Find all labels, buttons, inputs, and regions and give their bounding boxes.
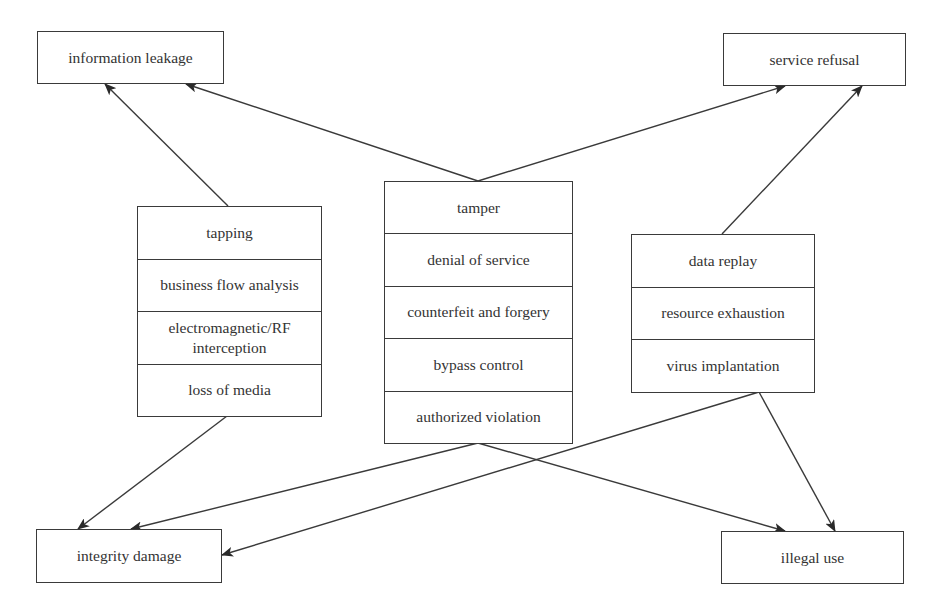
arrow-left-to-integrity-damage: [78, 416, 227, 529]
threat-item: resource exhaustion: [632, 287, 814, 340]
threat-group-center: tamper denial of service counterfeit and…: [384, 181, 573, 444]
outcome-label: service refusal: [770, 51, 860, 69]
arrow-center-to-service-refusal: [478, 86, 785, 181]
outcome-label: integrity damage: [77, 547, 182, 565]
outcome-label: information leakage: [68, 49, 192, 67]
outcome-information-leakage: information leakage: [37, 31, 224, 84]
arrow-right-to-illegal-use: [759, 392, 835, 531]
outcome-integrity-damage: integrity damage: [36, 529, 222, 583]
outcome-label: illegal use: [781, 549, 844, 567]
arrow-left-to-info-leakage: [105, 84, 228, 206]
threat-item: bypass control: [385, 338, 572, 390]
threat-item: virus implantation: [632, 339, 814, 392]
arrow-right-to-service-refusal: [722, 86, 862, 234]
threat-item: business flow analysis: [138, 259, 321, 312]
threat-item: tapping: [138, 207, 321, 259]
threat-item: authorized violation: [385, 391, 572, 443]
outcome-illegal-use: illegal use: [721, 531, 904, 584]
threat-group-left: tapping business flow analysis electroma…: [137, 206, 322, 417]
threat-item: tamper: [385, 182, 572, 233]
outcome-service-refusal: service refusal: [723, 33, 906, 86]
threat-group-right: data replay resource exhaustion virus im…: [631, 234, 815, 393]
arrow-center-to-integrity-damage: [131, 443, 478, 529]
threat-item: counterfeit and forgery: [385, 286, 572, 338]
threat-item: loss of media: [138, 364, 321, 417]
arrow-center-to-illegal-use: [478, 443, 785, 531]
threat-item: data replay: [632, 235, 814, 287]
threat-item: electromagnetic/RF interception: [138, 311, 321, 364]
arrow-center-to-info-leakage: [186, 84, 478, 181]
threat-item: denial of service: [385, 233, 572, 285]
